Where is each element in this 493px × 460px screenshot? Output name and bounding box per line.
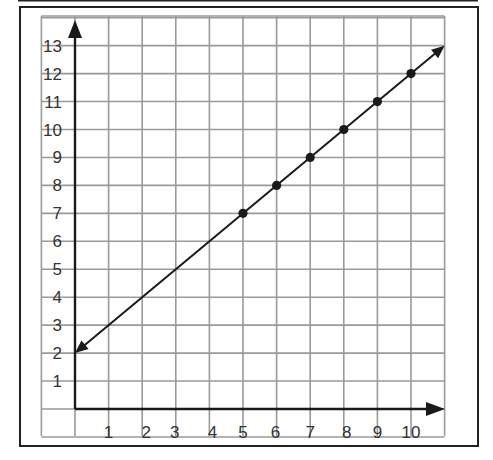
- y-tick-label: 10: [43, 121, 62, 140]
- y-tick-label: 3: [53, 316, 62, 335]
- x-tick-label: 2: [141, 423, 150, 442]
- x-tick-label: 6: [271, 423, 280, 442]
- data-point: [306, 153, 315, 162]
- x-tick-label: 4: [208, 423, 217, 442]
- y-tick-label: 6: [53, 232, 62, 251]
- x-tick-label: 9: [373, 423, 382, 442]
- data-point: [373, 97, 382, 106]
- y-tick-label: 8: [53, 176, 62, 195]
- y-tick-label: 2: [53, 344, 62, 363]
- y-tick-label: 1: [53, 372, 62, 391]
- x-tick-label: 10: [402, 423, 421, 442]
- coordinate-plane: 12345678910111213 12345678910: [0, 0, 493, 460]
- y-tick-label: 13: [43, 37, 62, 56]
- y-tick-label: 11: [44, 93, 62, 112]
- y-tick-label: 9: [53, 148, 62, 167]
- x-tick-label: 5: [238, 423, 247, 442]
- x-tick-label: 7: [305, 423, 314, 442]
- x-tick-label: 1: [104, 423, 113, 442]
- x-tick-label: 3: [170, 423, 179, 442]
- y-tick-label: 4: [53, 288, 62, 307]
- data-point: [406, 69, 415, 78]
- y-tick-label: 7: [53, 204, 62, 223]
- data-point: [339, 125, 348, 134]
- y-tick-label: 5: [53, 260, 62, 279]
- graph-figure: 12345678910111213 12345678910: [0, 0, 493, 460]
- data-point: [238, 209, 247, 218]
- y-tick-label: 12: [43, 65, 62, 84]
- data-point: [272, 181, 281, 190]
- x-tick-label: 8: [342, 423, 351, 442]
